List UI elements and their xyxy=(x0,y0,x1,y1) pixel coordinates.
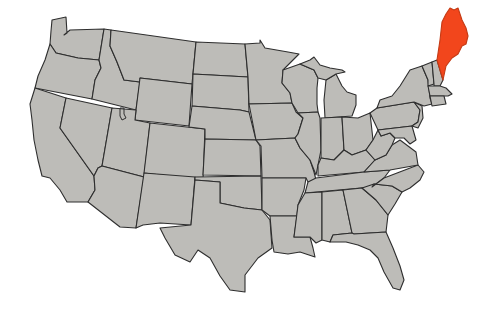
state-kansas[interactable] xyxy=(203,139,261,176)
state-florida[interactable] xyxy=(330,232,404,290)
state-michigan[interactable] xyxy=(324,74,356,118)
state-arizona[interactable] xyxy=(88,166,144,228)
states-group xyxy=(30,8,468,292)
state-new-york[interactable] xyxy=(377,66,432,108)
state-new-mexico[interactable] xyxy=(136,173,195,228)
state-massachusetts[interactable] xyxy=(428,86,452,96)
state-north-dakota[interactable] xyxy=(193,42,248,77)
state-montana[interactable] xyxy=(110,30,196,84)
us-map xyxy=(0,0,497,319)
state-wyoming[interactable] xyxy=(135,78,192,126)
state-colorado[interactable] xyxy=(144,123,205,180)
state-maine[interactable] xyxy=(437,8,468,80)
state-connecticut[interactable] xyxy=(430,96,446,106)
